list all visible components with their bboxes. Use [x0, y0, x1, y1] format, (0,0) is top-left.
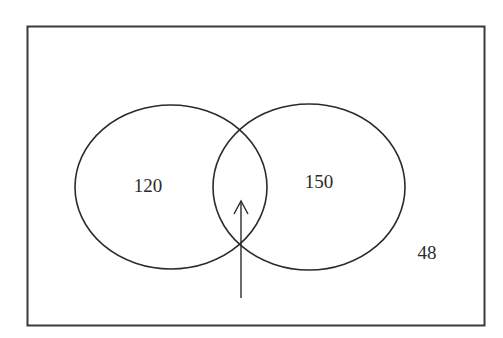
- venn-diagram: 120 150 48: [0, 0, 503, 338]
- set-a-ellipse: [75, 105, 267, 269]
- set-b-only-label: 150: [305, 171, 334, 192]
- outside-label: 48: [418, 242, 437, 263]
- universal-set-frame: [28, 27, 485, 326]
- set-a-only-label: 120: [134, 175, 163, 196]
